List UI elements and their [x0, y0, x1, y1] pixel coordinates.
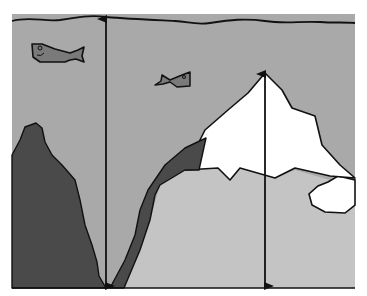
diagram-canvas: [0, 0, 367, 296]
